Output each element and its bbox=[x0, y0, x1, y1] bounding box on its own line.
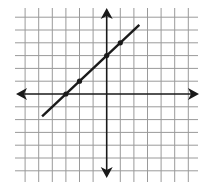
plotted-line bbox=[42, 25, 139, 117]
data-point bbox=[77, 79, 82, 84]
axes bbox=[16, 8, 199, 178]
data-point bbox=[63, 91, 68, 96]
coordinate-graph bbox=[0, 0, 210, 185]
data-point bbox=[118, 40, 123, 45]
line-segment bbox=[42, 25, 139, 117]
data-point bbox=[104, 53, 109, 58]
